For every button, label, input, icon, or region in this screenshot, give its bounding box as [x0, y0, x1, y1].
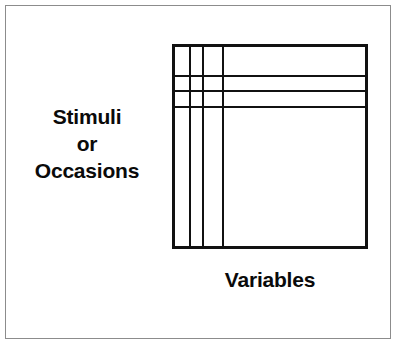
grid-line-horizontal: [175, 90, 365, 92]
grid-line-horizontal: [175, 75, 365, 77]
row-axis-label-line-3: Occasions: [8, 158, 166, 185]
row-axis-label-line-2: or: [8, 131, 166, 158]
grid-line-horizontal: [175, 106, 365, 108]
figure-canvas: Stimuli or Occasions Variables: [0, 0, 398, 349]
row-axis-label: Stimuli or Occasions: [8, 104, 166, 185]
column-axis-label: Variables: [172, 268, 368, 292]
data-box-grid: [175, 47, 365, 246]
row-axis-label-line-1: Stimuli: [8, 104, 166, 131]
data-box-matrix: [172, 44, 368, 249]
